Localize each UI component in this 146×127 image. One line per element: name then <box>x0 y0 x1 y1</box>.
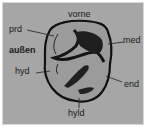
label-med: med <box>123 36 141 45</box>
label-vorne: vorne <box>68 10 91 19</box>
label-end: end <box>124 80 139 89</box>
label-prd: prd <box>9 25 22 34</box>
label-hyld: hyld <box>68 109 85 118</box>
label-hyd: hyd <box>15 67 30 76</box>
label-aussen: außen <box>9 46 36 55</box>
